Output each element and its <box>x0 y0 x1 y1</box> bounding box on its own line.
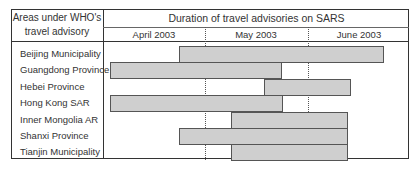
row-header: Areas under WHO's travel advisory <box>11 11 103 39</box>
row-label: Beijing Municipality <box>20 46 101 62</box>
month-may: May 2003 <box>206 29 306 40</box>
month-april: April 2003 <box>104 29 204 40</box>
bar-inner-mongolia <box>231 112 348 129</box>
month-june: June 2003 <box>309 29 409 40</box>
row-label: Guangdong Province <box>20 62 109 78</box>
header-divider <box>11 41 409 42</box>
row-label: Tianjin Municipality <box>20 144 100 160</box>
bar-hebei <box>264 79 351 96</box>
row-header-line2: travel advisory <box>11 25 103 39</box>
bar-hong-kong <box>110 95 283 112</box>
title-divider <box>103 27 409 28</box>
row-label: Hong Kong SAR <box>20 95 90 111</box>
chart-title: Duration of travel advisories on SARS <box>104 12 409 24</box>
bar-guangdong <box>110 62 282 79</box>
row-label: Shanxi Province <box>20 128 89 144</box>
row-label: Inner Mongolia AR <box>20 112 98 128</box>
row-label: Hebei Province <box>20 79 84 95</box>
row-header-line1: Areas under WHO's <box>11 11 103 25</box>
bar-tianjin <box>231 144 348 161</box>
bar-beijing <box>179 46 384 63</box>
bar-shanxi <box>179 128 348 145</box>
